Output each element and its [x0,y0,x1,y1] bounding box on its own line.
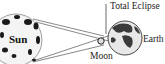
moon-label: Moon [90,52,113,62]
sun-label: Sun [9,34,27,45]
earth-label: Earth [143,35,164,45]
moon-icon [98,38,104,44]
solar-eclipse-diagram: Sun Total Eclipse Earth Moon [0,0,165,64]
total-eclipse-label: Total Eclipse [110,2,160,12]
earth-icon [108,21,142,55]
